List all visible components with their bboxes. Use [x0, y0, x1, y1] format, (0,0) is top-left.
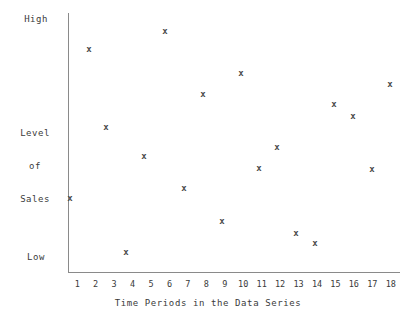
data-point-2: x	[84, 44, 94, 55]
data-point-13: x	[291, 228, 301, 239]
data-point-11: x	[254, 163, 264, 174]
data-point-5: x	[139, 151, 149, 162]
data-point-10: x	[236, 68, 246, 79]
data-point-3: x	[101, 122, 111, 133]
data-point-9: x	[217, 216, 227, 227]
data-point-4: x	[121, 247, 131, 258]
data-point-1: x	[65, 193, 75, 204]
data-point-6: x	[160, 26, 170, 37]
data-point-17: x	[367, 164, 377, 175]
scatter-plot-figure: High Level of Sales Low 1234567891011121…	[0, 0, 416, 322]
data-point-18: x	[385, 79, 395, 90]
data-point-8: x	[198, 89, 208, 100]
data-point-14: x	[310, 238, 320, 249]
plot-area: xxxxxxxxxxxxxxxxxx	[0, 0, 416, 322]
data-point-15: x	[329, 99, 339, 110]
x-axis-title: Time Periods in the Data Series	[0, 298, 416, 308]
data-point-7: x	[179, 183, 189, 194]
data-point-16: x	[348, 111, 358, 122]
data-point-12: x	[272, 142, 282, 153]
